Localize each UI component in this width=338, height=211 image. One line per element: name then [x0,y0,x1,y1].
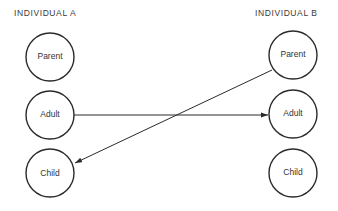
transaction-diagram: Parent Adult Child Parent Adult Child [0,0,338,211]
node-a-parent: Parent [26,33,74,81]
node-b-parent: Parent [269,31,317,79]
node-b-adult-label: Adult [283,108,303,118]
node-a-child-label: Child [40,168,60,178]
edge-parent-b-to-child-a [75,70,272,163]
node-a-adult: Adult [26,91,74,139]
node-b-parent-label: Parent [280,49,306,59]
node-a-adult-label: Adult [40,109,60,119]
node-b-adult: Adult [269,90,317,138]
node-b-child: Child [269,149,317,197]
node-a-parent-label: Parent [37,51,63,61]
node-a-child: Child [26,149,74,197]
node-b-child-label: Child [283,167,303,177]
